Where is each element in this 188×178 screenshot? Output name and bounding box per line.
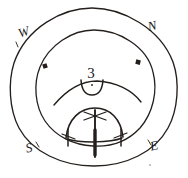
cardinal-label-north: N [145,17,159,34]
inner-marker-west-icon [42,63,48,69]
cardinal-label-south: S [24,139,34,155]
cardinal-label-east: E [148,137,160,154]
cardinal-label-west: W [16,23,32,41]
inner-marker-north-icon [135,59,141,65]
south-label-tick [36,142,39,147]
center-numeral: 3 [87,65,95,81]
astronomical-diagram-figure: 3 W N S E [0,0,188,178]
ink-speck [149,164,151,166]
diagram-canvas: 3 W N S E [0,0,188,178]
west-label-tick [16,42,18,47]
numeral-dot-icon [91,84,93,86]
